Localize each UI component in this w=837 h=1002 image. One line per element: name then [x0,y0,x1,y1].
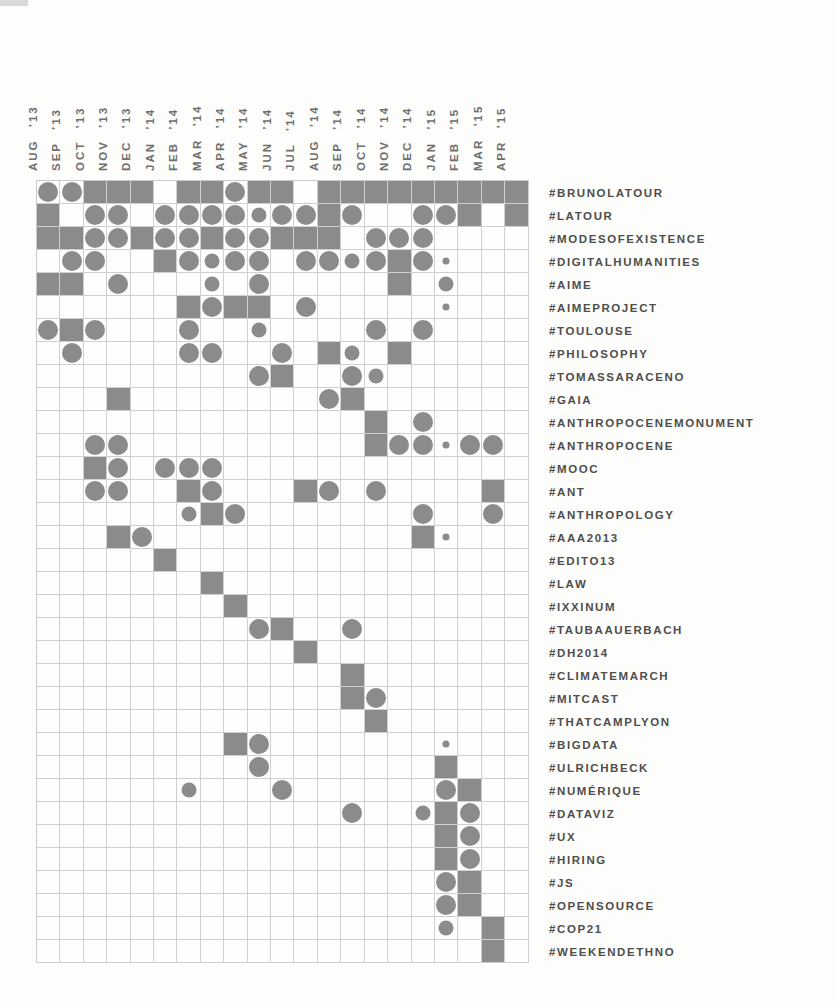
matrix-cell [60,733,83,756]
matrix-cell [131,365,154,388]
matrix-cell [458,572,481,595]
column-header: JUL ’14 [283,109,298,171]
cell-square [271,227,293,249]
matrix-cell [84,618,107,641]
matrix-cell [224,434,247,457]
cell-square [341,687,363,709]
matrix-cell [271,733,294,756]
cell-square [177,181,199,203]
matrix-cell [318,204,341,227]
matrix-cell [37,618,60,641]
matrix-cell [107,549,130,572]
matrix-cell [294,296,317,319]
matrix-cell [365,480,388,503]
matrix-cell [224,273,247,296]
matrix-cell [84,940,107,963]
matrix-cell [154,871,177,894]
matrix-cell [482,480,505,503]
cell-lg-circle [225,228,245,248]
matrix-cell [201,342,224,365]
matrix-cell [271,641,294,664]
matrix-cell [201,411,224,434]
matrix-cell [154,894,177,917]
cell-square [271,365,293,387]
matrix-cell [248,733,271,756]
matrix-cell [60,710,83,733]
cell-square [201,503,223,525]
matrix-cell [154,687,177,710]
cell-lg-circle [132,527,152,547]
matrix-cell [412,618,435,641]
matrix-cell [131,388,154,411]
cell-lg-circle [249,251,269,271]
matrix-cell [248,940,271,963]
cell-square [341,388,363,410]
cell-lg-circle [389,228,409,248]
matrix-cell [482,365,505,388]
row-label: #AAA2013 [549,532,619,544]
matrix-cell [60,779,83,802]
matrix-cell [271,457,294,480]
matrix-cell [294,710,317,733]
matrix-cell [341,779,364,802]
cell-square [341,181,363,203]
cell-md-circle [439,277,454,292]
matrix-cell [107,434,130,457]
matrix-cell [458,848,481,871]
matrix-cell [365,273,388,296]
cell-lg-circle [62,343,82,363]
matrix-cell [60,894,83,917]
matrix-cell [224,917,247,940]
cell-lg-circle [108,435,128,455]
matrix-cell [412,480,435,503]
matrix-cell [60,664,83,687]
matrix-cell [201,802,224,825]
matrix-cell [107,411,130,434]
matrix-cell [154,365,177,388]
matrix-cell [131,710,154,733]
cell-lg-circle [460,435,480,455]
matrix-cell [388,549,411,572]
matrix-cell [388,572,411,595]
matrix-cell [412,917,435,940]
cell-square [318,342,340,364]
cell-lg-circle [202,481,222,501]
cell-md-circle [251,323,266,338]
matrix-cell [84,917,107,940]
matrix-cell [60,273,83,296]
matrix-cell [177,388,200,411]
cell-square [84,457,106,479]
matrix-cell [388,250,411,273]
matrix-cell [131,411,154,434]
matrix-cell [177,871,200,894]
matrix-cell [412,641,435,664]
matrix-cell [201,365,224,388]
matrix-cell [201,779,224,802]
matrix-cell [482,825,505,848]
matrix-cell [224,595,247,618]
matrix-cell [224,549,247,572]
cell-small-dot [443,258,450,265]
matrix-cell [60,319,83,342]
matrix-cell [177,710,200,733]
matrix-cell [294,273,317,296]
matrix-cell [177,802,200,825]
matrix-cell [154,457,177,480]
matrix-cell [248,342,271,365]
matrix-cell [201,664,224,687]
matrix-cell [365,365,388,388]
matrix-cell [84,779,107,802]
cell-lg-circle [85,228,105,248]
cell-lg-circle [179,343,199,363]
matrix-cell [435,756,458,779]
matrix-cell [435,434,458,457]
matrix-cell [505,733,528,756]
matrix-cell [37,710,60,733]
matrix-cell [318,365,341,388]
matrix-cell [248,250,271,273]
matrix-cell [294,411,317,434]
cell-square [154,549,176,571]
row-label: #ANT [549,486,585,498]
cell-square [412,526,434,548]
matrix-cell [458,388,481,411]
